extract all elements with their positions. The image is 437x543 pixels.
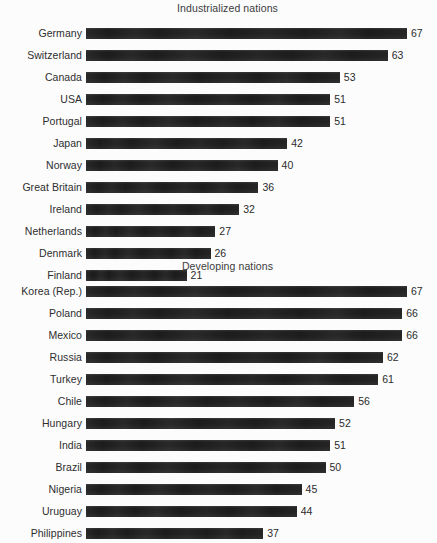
bar — [86, 308, 402, 319]
chart-row: Mexico66 — [0, 324, 437, 346]
bar — [86, 50, 388, 61]
category-label: Netherlands — [0, 220, 82, 242]
category-label: Switzerland — [0, 44, 82, 66]
chart-row: Switzerland63 — [0, 44, 437, 66]
category-label: Chile — [0, 390, 82, 412]
bar — [86, 440, 330, 451]
category-label: Portugal — [0, 110, 82, 132]
chart-row: Portugal51 — [0, 110, 437, 132]
category-label: Hungary — [0, 412, 82, 434]
bar-value-label: 50 — [330, 456, 342, 478]
chart-row: Korea (Rep.)67 — [0, 280, 437, 302]
chart-row: Hungary52 — [0, 412, 437, 434]
category-label: Ireland — [0, 198, 82, 220]
chart-row: Canada53 — [0, 66, 437, 88]
chart-row: Germany67 — [0, 22, 437, 44]
category-label: Nigeria — [0, 478, 82, 500]
bar-value-label: 37 — [267, 522, 279, 543]
bar-value-label: 45 — [306, 478, 318, 500]
chart-row: Nigeria45 — [0, 478, 437, 500]
category-label: Japan — [0, 132, 82, 154]
bar-value-label: 56 — [358, 390, 370, 412]
chart-row: Chile56 — [0, 390, 437, 412]
chart-row: Philippines37 — [0, 522, 437, 543]
category-label: Turkey — [0, 368, 82, 390]
chart-row: Brazil50 — [0, 456, 437, 478]
chart-row: Ireland32 — [0, 198, 437, 220]
panel-title: Developing nations — [0, 260, 437, 272]
category-label: Canada — [0, 66, 82, 88]
bar-value-label: 67 — [411, 280, 423, 302]
bar — [86, 462, 326, 473]
chart-row: Japan42 — [0, 132, 437, 154]
bar-value-label: 52 — [339, 412, 351, 434]
bar-value-label: 36 — [262, 176, 274, 198]
bar — [86, 396, 354, 407]
bar — [86, 160, 278, 171]
bar — [86, 352, 383, 363]
bar — [86, 28, 407, 39]
chart-row: Norway40 — [0, 154, 437, 176]
category-label: India — [0, 434, 82, 456]
bar — [86, 94, 330, 105]
bar — [86, 506, 297, 517]
bar — [86, 484, 302, 495]
bar-value-label: 51 — [334, 110, 346, 132]
bar — [86, 116, 330, 127]
category-label: Great Britain — [0, 176, 82, 198]
bar — [86, 286, 407, 297]
bar — [86, 528, 263, 539]
panel-title: Industrialized nations — [0, 2, 437, 14]
chart-row: Great Britain36 — [0, 176, 437, 198]
chart-row: Netherlands27 — [0, 220, 437, 242]
bar-value-label: 66 — [406, 324, 418, 346]
bar-value-label: 51 — [334, 88, 346, 110]
category-label: Norway — [0, 154, 82, 176]
category-label: USA — [0, 88, 82, 110]
category-label: Brazil — [0, 456, 82, 478]
category-label: Philippines — [0, 522, 82, 543]
category-label: Korea (Rep.) — [0, 280, 82, 302]
bar-value-label: 27 — [219, 220, 231, 242]
bar-value-label: 62 — [387, 346, 399, 368]
bar-value-label: 61 — [382, 368, 394, 390]
bar — [86, 248, 211, 259]
chart-row: Russia62 — [0, 346, 437, 368]
bar — [86, 204, 239, 215]
chart-row: Uruguay44 — [0, 500, 437, 522]
chart-row: USA51 — [0, 88, 437, 110]
bar-value-label: 40 — [282, 154, 294, 176]
bar-value-label: 51 — [334, 434, 346, 456]
bar — [86, 330, 402, 341]
chart-row: Turkey61 — [0, 368, 437, 390]
bar-value-label: 67 — [411, 22, 423, 44]
category-label: Uruguay — [0, 500, 82, 522]
category-label: Germany — [0, 22, 82, 44]
category-label: Poland — [0, 302, 82, 324]
category-label: Mexico — [0, 324, 82, 346]
category-label: Russia — [0, 346, 82, 368]
chart-row: India51 — [0, 434, 437, 456]
bar-value-label: 53 — [344, 66, 356, 88]
bar — [86, 374, 378, 385]
bar-value-label: 42 — [291, 132, 303, 154]
bar — [86, 182, 258, 193]
bar-value-label: 44 — [301, 500, 313, 522]
bar — [86, 72, 340, 83]
bar — [86, 226, 215, 237]
chart-row: Poland66 — [0, 302, 437, 324]
bar — [86, 138, 287, 149]
bar — [86, 418, 335, 429]
bar-value-label: 32 — [243, 198, 255, 220]
bar-value-label: 63 — [392, 44, 404, 66]
bar-value-label: 66 — [406, 302, 418, 324]
